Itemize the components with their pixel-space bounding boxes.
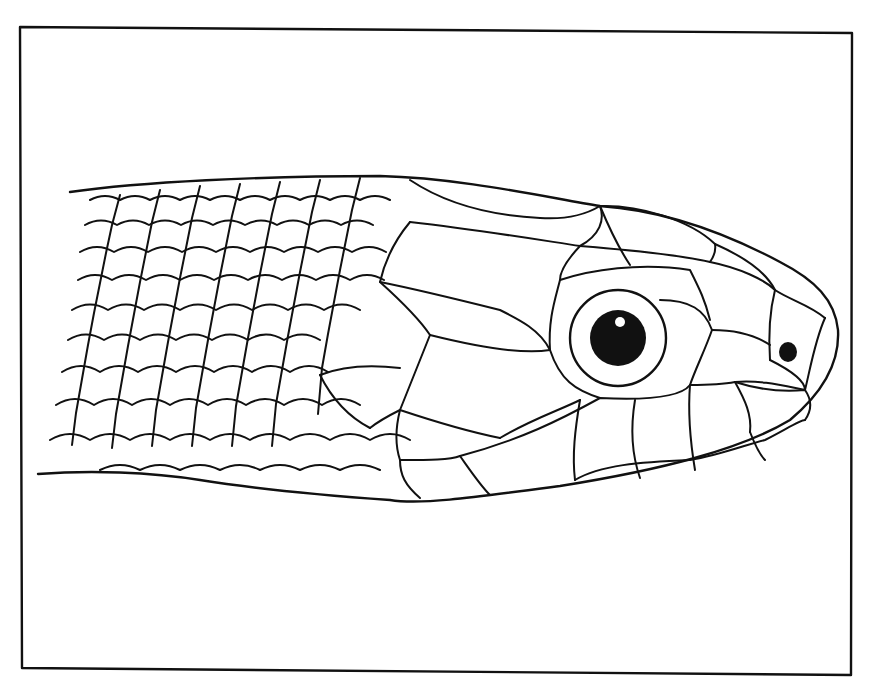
frame-border bbox=[20, 27, 852, 675]
snake-head-illustration bbox=[0, 0, 871, 689]
nostril bbox=[779, 342, 797, 362]
figure bbox=[0, 0, 871, 689]
eye bbox=[570, 290, 666, 386]
body-scales bbox=[50, 178, 410, 470]
head-scales bbox=[320, 180, 825, 498]
